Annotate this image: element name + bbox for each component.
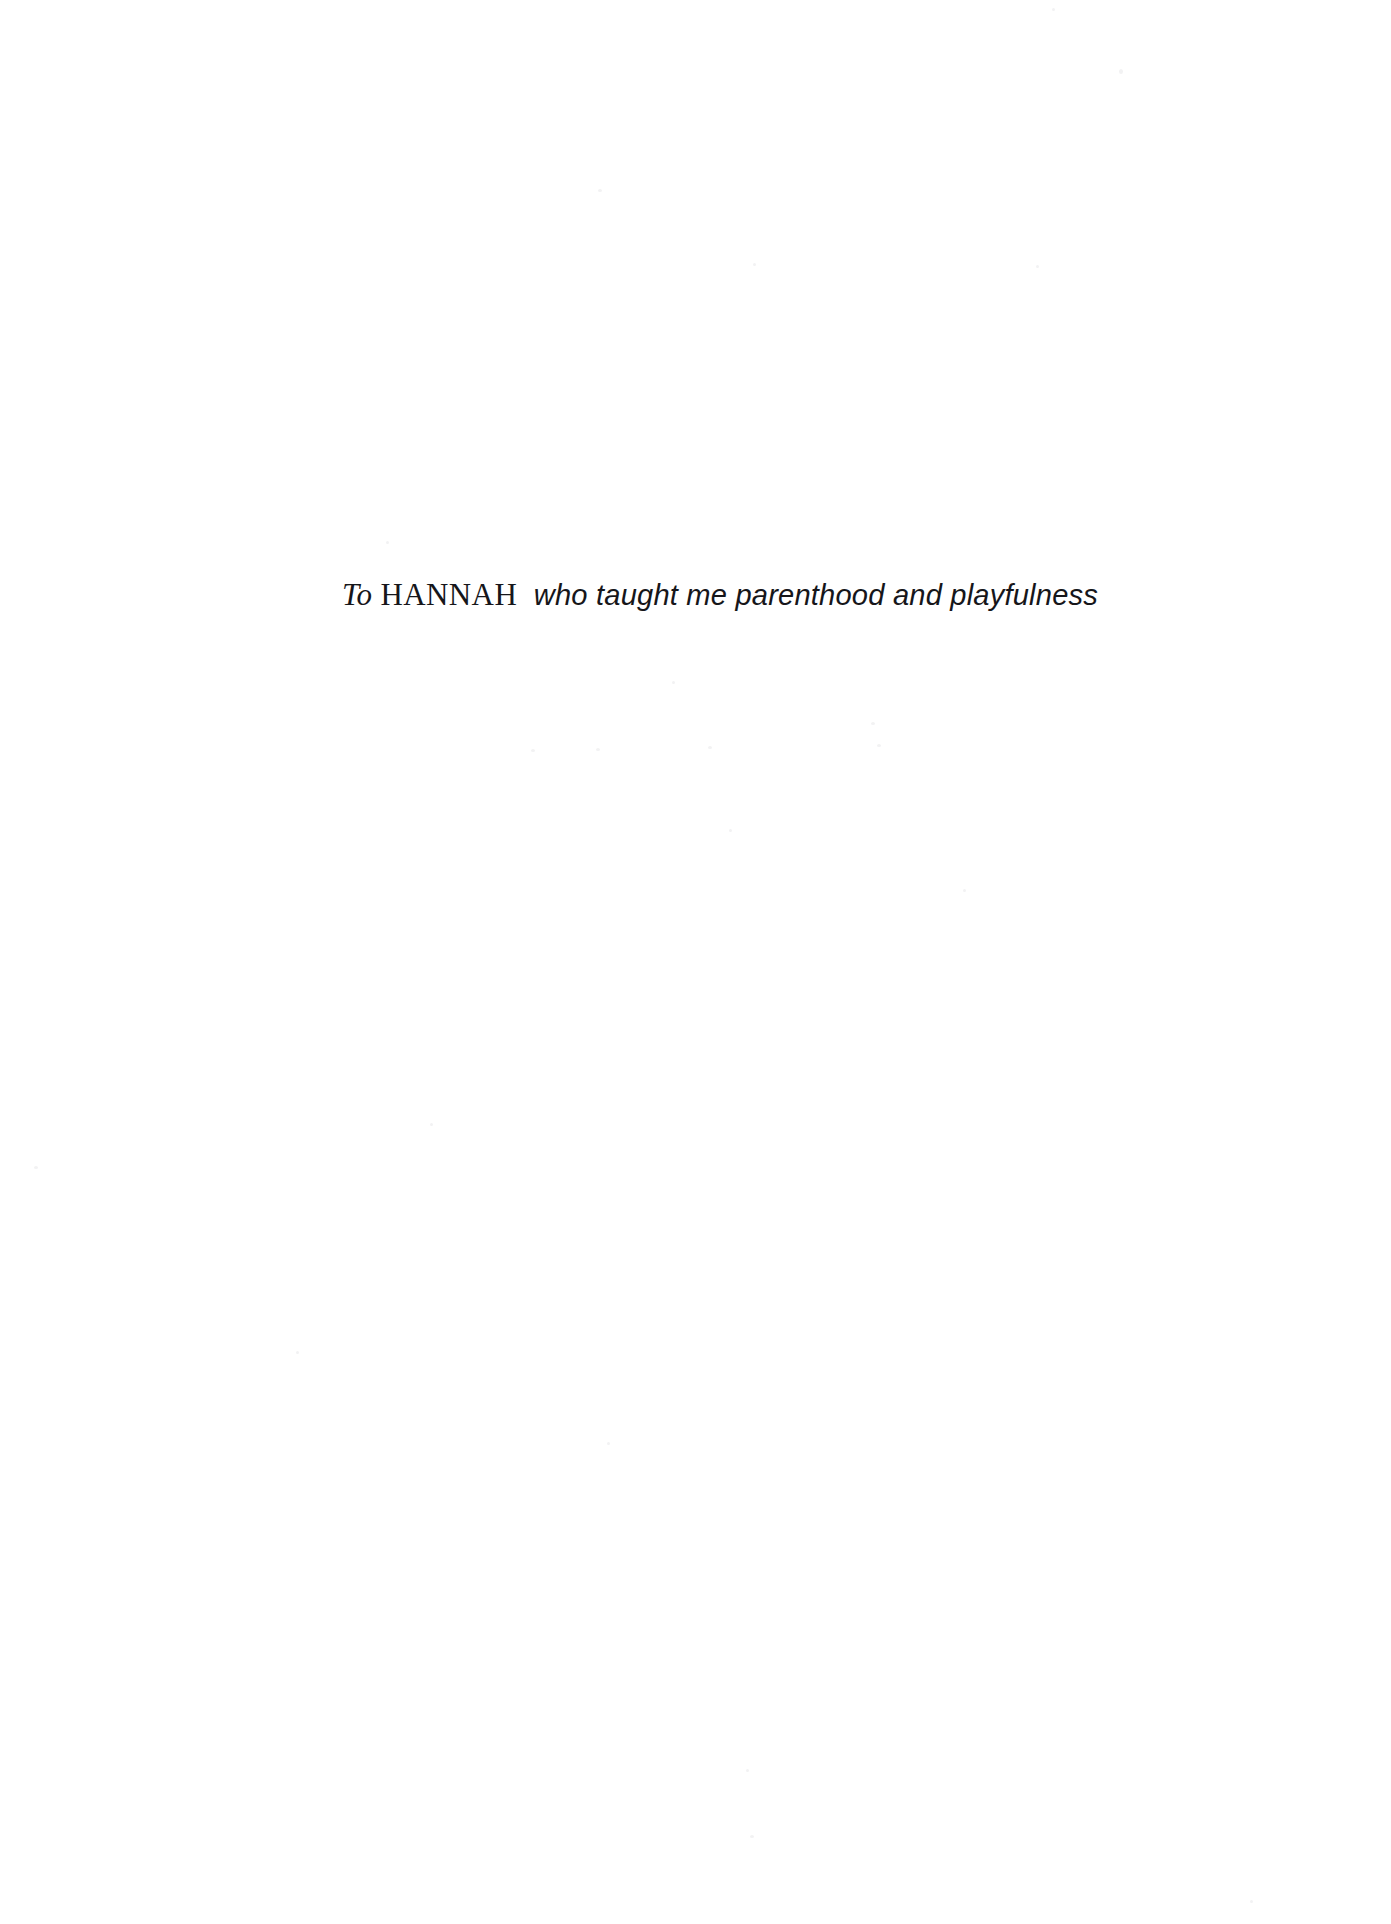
book-page: To HANNAH who taught me parenthood and p…: [0, 0, 1391, 1924]
scan-artifact: [871, 722, 875, 725]
scan-artifact: [1250, 1900, 1253, 1903]
scan-artifact: [1036, 265, 1039, 268]
dedication-prefix: To: [342, 577, 373, 612]
scan-artifact: [753, 263, 756, 266]
scan-artifact: [386, 541, 389, 544]
scan-artifact: [672, 681, 675, 684]
scan-artifact: [877, 744, 881, 747]
scan-artifact: [746, 1769, 749, 1772]
scan-artifact: [963, 889, 966, 892]
scan-artifact: [729, 829, 732, 832]
dedication-space-2: [517, 577, 525, 612]
scan-artifact: [708, 746, 712, 749]
scan-artifact: [1052, 8, 1055, 11]
scan-artifact: [607, 1442, 610, 1445]
dedication-name: HANNAH: [380, 577, 517, 612]
scan-artifact: [596, 748, 600, 751]
scan-artifact: [296, 1351, 299, 1354]
scan-artifact: [598, 189, 602, 192]
dedication-phrase: who taught me parenthood and playfulness: [534, 575, 1098, 615]
scan-artifact: [34, 1166, 38, 1169]
dedication-block: To HANNAH who taught me parenthood and p…: [0, 575, 1391, 615]
dedication-space-1: [372, 577, 380, 612]
dedication-line: To HANNAH who taught me parenthood and p…: [342, 575, 1107, 615]
scan-artifact: [531, 749, 535, 752]
scan-artifact: [430, 1123, 433, 1126]
scan-artifact: [1119, 69, 1123, 74]
scan-artifact: [750, 1835, 754, 1838]
